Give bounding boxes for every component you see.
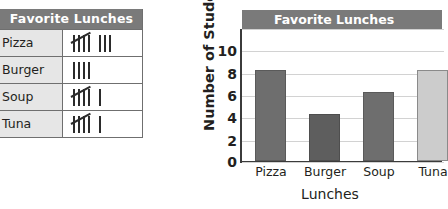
gridline: 10 [242, 51, 444, 52]
chart-title: Favorite Lunches [242, 10, 442, 29]
tally-row-label: Soup [0, 84, 63, 110]
bar-burger: Burger [309, 114, 340, 161]
y-tick-label: 2 [227, 133, 237, 149]
y-axis-title: Number of Students [201, 0, 217, 131]
y-tick-label: 8 [227, 66, 237, 82]
bar-soup: Soup [363, 92, 394, 161]
tally-row-label: Burger [0, 57, 63, 83]
x-axis-title: Lunches [240, 186, 420, 202]
x-tick-label: Soup [363, 164, 394, 179]
table-row: Pizza [0, 29, 142, 56]
tally-table-title: Favorite Lunches [0, 9, 142, 29]
tally-row-marks [63, 57, 142, 83]
gridline [242, 29, 444, 30]
tally-single-marks [99, 89, 101, 106]
gridline: 0 [242, 162, 444, 163]
y-tick-label: 4 [227, 110, 237, 126]
tally-group-of-five [73, 89, 92, 106]
tally-row-marks [63, 30, 142, 56]
table-row: Soup [0, 83, 142, 110]
tally-row-marks [63, 84, 142, 110]
table-row: Burger [0, 56, 142, 83]
x-tick-label: Burger [304, 164, 346, 179]
bar-pizza: Pizza [255, 70, 286, 161]
table-row: Tuna [0, 110, 142, 137]
favorite-lunches-bar-chart: Number of Students Favorite Lunches 10 8… [183, 0, 432, 209]
bar-tuna: Tuna [417, 70, 448, 161]
tally-single-marks [99, 35, 111, 52]
tally-row-label: Pizza [0, 30, 63, 56]
plot-area: 10 8 6 4 2 0 Pizza Burger Soup Tuna [240, 29, 442, 163]
tally-group-of-five [73, 35, 92, 52]
tally-single-marks [99, 116, 101, 133]
x-tick-label: Tuna [418, 164, 447, 179]
tally-single-marks [73, 62, 90, 79]
y-tick-label: 0 [227, 154, 237, 170]
y-tick-label: 10 [218, 43, 237, 59]
y-tick-label: 6 [227, 88, 237, 104]
tally-chart-table: Favorite Lunches Pizza Burger [0, 9, 143, 138]
tally-row-label: Tuna [0, 111, 63, 137]
tally-row-marks [63, 111, 142, 137]
x-tick-label: Pizza [255, 164, 287, 179]
tally-group-of-five [73, 116, 92, 133]
